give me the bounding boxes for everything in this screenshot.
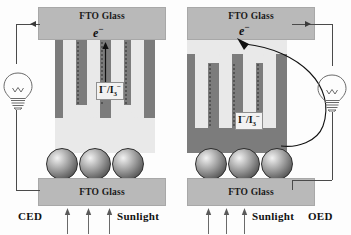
figure-canvas: FTO Glass e− I−/I3 — [0, 0, 351, 235]
circuit-wire-lower-oed — [332, 112, 333, 180]
finger-texture — [77, 42, 79, 104]
bottom-fto-glass-ced: FTO Glass — [38, 178, 166, 206]
finger-texture — [209, 64, 211, 126]
panel-ced: FTO Glass e− I−/I3 — [0, 0, 176, 235]
channel-segment — [87, 40, 100, 118]
caption-ced: CED — [18, 210, 42, 222]
bottom-fto-glass-oed: FTO Glass — [187, 178, 315, 206]
tio2-sphere — [228, 148, 260, 180]
tio2-sphere — [79, 148, 111, 180]
light-bulb-oed — [314, 64, 350, 112]
circuit-wire-top-oed — [292, 24, 332, 25]
current-direction-arrow-oed — [305, 21, 311, 27]
sunlight-arrow — [84, 208, 93, 234]
tio2-sphere — [46, 148, 78, 180]
circuit-wire-lower-ced — [16, 110, 17, 190]
sunlight-arrow — [204, 208, 213, 234]
sunlight-arrow — [222, 208, 231, 234]
bottom-fto-glass-label-oed: FTO Glass — [228, 187, 274, 197]
sunlight-arrow — [63, 208, 72, 234]
circuit-wire-drop-oed — [292, 180, 293, 190]
sunlight-arrow — [240, 208, 249, 234]
current-direction-arrow-ced — [30, 21, 36, 27]
circuit-wire-bottom-ced — [16, 190, 40, 191]
caption-oed: OED — [308, 210, 333, 222]
electron-label-ced: e− — [93, 24, 103, 41]
tio2-sphere — [195, 148, 227, 180]
sunlight-label-ced: Sunlight — [117, 210, 159, 222]
channel-segment — [219, 50, 232, 128]
circuit-wire-bottom-oed — [292, 180, 332, 181]
channel-base — [55, 118, 155, 153]
redox-label-ced: I−/I3− — [96, 82, 124, 100]
light-bulb-ced — [0, 62, 36, 110]
redox-label-oed: I−/I3− — [235, 112, 263, 130]
channel-segment — [131, 40, 144, 118]
circuit-wire-left-ced — [16, 24, 17, 64]
circuit-wire-top-ced — [16, 24, 40, 25]
top-fto-glass-label-ced: FTO Glass — [79, 11, 125, 21]
sunlight-label-oed: Sunlight — [252, 210, 294, 222]
bottom-fto-glass-label-ced: FTO Glass — [79, 187, 125, 197]
circuit-wire-right-oed — [332, 24, 333, 66]
tio2-sphere — [261, 148, 293, 180]
sunlight-arrow — [105, 208, 114, 234]
finger-texture — [125, 42, 127, 104]
tio2-sphere — [112, 148, 144, 180]
top-fto-glass-label-oed: FTO Glass — [228, 11, 274, 21]
panel-oed: FTO Glass e− I−/I3− — [175, 0, 351, 235]
